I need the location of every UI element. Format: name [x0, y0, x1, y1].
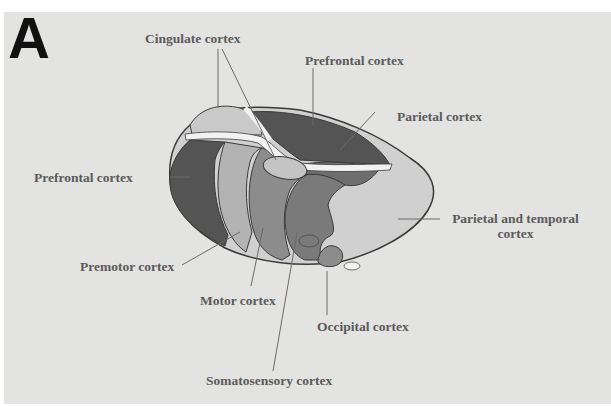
label-parietal-temporal-line2: cortex: [448, 226, 583, 241]
label-occipital-cortex: Occipital cortex: [317, 319, 409, 334]
label-premotor-cortex: Premotor cortex: [80, 259, 174, 274]
label-parietal-temporal-line1: Parietal and temporal: [448, 211, 583, 226]
label-cingulate-cortex: Cingulate cortex: [145, 31, 241, 46]
label-motor-cortex: Motor cortex: [200, 293, 276, 308]
label-somatosensory-cortex: Somatosensory cortex: [206, 373, 332, 388]
label-parietal-temporal-cortex: Parietal and temporal cortex: [448, 211, 583, 241]
label-parietal-cortex: Parietal cortex: [397, 109, 482, 124]
label-prefrontal-cortex-left: Prefrontal cortex: [34, 170, 133, 185]
label-prefrontal-cortex-top: Prefrontal cortex: [305, 53, 404, 68]
